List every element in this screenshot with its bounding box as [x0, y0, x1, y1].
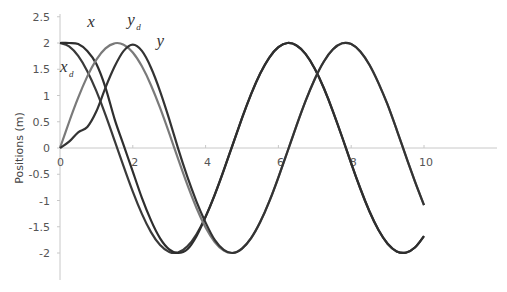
y-tick-label: -1: [39, 195, 50, 208]
series-label-y: y: [154, 31, 164, 50]
y-tick-label: 1.5: [33, 63, 51, 76]
x-tick-label: 0: [57, 156, 64, 169]
y-tick-label: 2: [43, 37, 50, 50]
series-label-x: x: [86, 12, 95, 31]
y-axis: 2.521.510.50-0.5-1-1.5-2: [29, 11, 60, 280]
series-label-subscript: d: [69, 69, 74, 79]
y-tick-label: 2.5: [33, 11, 51, 24]
y-tick-label: -1.5: [29, 221, 50, 234]
series-label-subscript: d: [136, 22, 141, 32]
x-tick-label: 10: [419, 156, 433, 169]
y-tick-label: -0.5: [29, 168, 50, 181]
y-axis-title: Positions (m): [13, 112, 26, 183]
series-label-xd: x: [59, 57, 68, 76]
y-tick-label: 1: [43, 90, 50, 103]
y-tick-label: 0: [43, 142, 50, 155]
y-tick-label: 0.5: [33, 116, 51, 129]
line-chart: 2.521.510.50-0.5-1-1.5-2 0246810 xydyxd …: [0, 0, 507, 292]
y-tick-label: -2: [39, 247, 50, 260]
series-label-yd: y: [125, 10, 135, 29]
x-tick-label: 4: [204, 156, 211, 169]
